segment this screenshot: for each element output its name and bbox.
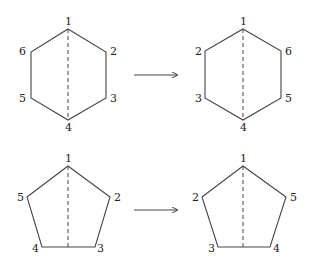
vertex-label: 5 bbox=[17, 191, 24, 204]
hexagon-reflected: 1 6 5 4 3 2 bbox=[195, 15, 292, 134]
vertex-label: 1 bbox=[240, 15, 247, 28]
hexagon-original: 1 2 3 4 5 6 bbox=[19, 15, 117, 134]
vertex-label: 2 bbox=[114, 191, 121, 204]
vertex-label: 5 bbox=[290, 191, 297, 204]
vertex-label: 3 bbox=[110, 92, 117, 105]
vertex-label: 6 bbox=[285, 45, 292, 58]
vertex-label: 4 bbox=[240, 121, 247, 134]
vertex-label: 2 bbox=[195, 45, 202, 58]
vertex-label: 4 bbox=[273, 242, 280, 255]
vertex-label: 6 bbox=[19, 45, 26, 58]
vertex-label: 4 bbox=[32, 242, 39, 255]
vertex-label: 2 bbox=[192, 191, 199, 204]
pentagon-reflected: 1 5 4 3 2 bbox=[192, 152, 297, 255]
vertex-label: 3 bbox=[208, 242, 215, 255]
vertex-label: 1 bbox=[65, 152, 72, 165]
reflection-diagram: 1 2 3 4 5 6 1 6 5 4 3 2 1 2 3 4 5 1 5 4 … bbox=[0, 0, 315, 265]
vertex-label: 1 bbox=[65, 15, 72, 28]
vertex-label: 5 bbox=[285, 92, 292, 105]
vertex-label: 2 bbox=[110, 45, 117, 58]
vertex-label: 3 bbox=[97, 242, 104, 255]
pentagon-original: 1 2 3 4 5 bbox=[17, 152, 121, 255]
vertex-label: 5 bbox=[19, 92, 26, 105]
vertex-label: 4 bbox=[65, 121, 72, 134]
vertex-label: 3 bbox=[195, 92, 202, 105]
vertex-label: 1 bbox=[240, 152, 247, 165]
